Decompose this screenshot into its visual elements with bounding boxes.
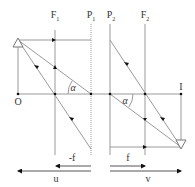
label-p1: P1: [87, 10, 96, 22]
label-p2: P2: [107, 10, 116, 22]
direction-arrow-icon: [160, 117, 165, 121]
alpha-arc-right: [129, 94, 133, 107]
ray-diagram-svg: [0, 0, 195, 187]
label-v: v: [146, 174, 151, 184]
lens-diagram: F1 P1 P2 F2 O I α α -f f u v: [0, 0, 195, 187]
label-alpha-right: α: [122, 96, 127, 106]
label-f: f: [126, 153, 129, 163]
label-o: O: [14, 97, 21, 107]
point-p2: [109, 93, 112, 96]
label-p2-sub: 2: [112, 16, 115, 22]
label-f1-sub: 1: [56, 16, 59, 22]
label-neg-f: -f: [69, 153, 76, 163]
label-f2-sub: 2: [146, 16, 149, 22]
point-o: [17, 93, 20, 96]
label-alpha-left: α: [70, 83, 75, 93]
point-p1: [90, 93, 93, 96]
point-i: [180, 93, 183, 96]
label-f2: F2: [141, 10, 150, 22]
point-f2: [144, 93, 147, 96]
label-u: u: [54, 174, 59, 184]
label-i: I: [179, 82, 182, 92]
label-p1-sub: 1: [92, 16, 95, 22]
label-f1: F1: [51, 10, 60, 22]
direction-arrow-icon: [53, 65, 57, 69]
point-f1: [54, 93, 57, 96]
